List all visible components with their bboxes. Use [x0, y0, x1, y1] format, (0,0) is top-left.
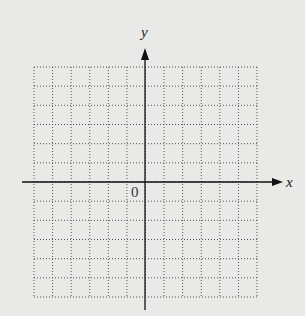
- coordinate-plane: [0, 0, 305, 316]
- y-axis-arrow: [141, 48, 149, 60]
- origin-label: 0: [131, 184, 139, 201]
- x-axis-arrow: [272, 178, 283, 186]
- y-axis-label: y: [141, 24, 148, 41]
- x-axis-label: x: [286, 174, 293, 191]
